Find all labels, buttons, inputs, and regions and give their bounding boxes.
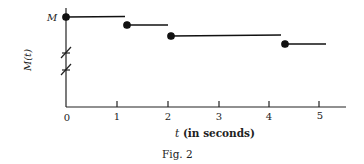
data-point <box>124 22 130 28</box>
data-point <box>63 14 69 20</box>
data-point <box>168 33 174 39</box>
step-chart: 0 1 2 3 4 5 M M(t) t (in seconds) Fig. 2 <box>0 0 364 164</box>
y-marker-label: M <box>46 12 58 23</box>
x-axis-unit: (in seconds) <box>179 127 255 139</box>
y-axis-label: M(t) <box>22 49 33 72</box>
x-tick-label: 1 <box>114 111 120 122</box>
figure-caption: Fig. 2 <box>162 148 193 160</box>
step-series <box>63 14 326 47</box>
data-point <box>282 41 288 47</box>
x-tick-label: 2 <box>165 111 171 122</box>
axis-break-icon <box>61 47 71 75</box>
x-tick-label: 0 <box>64 112 70 123</box>
x-tick-label: 3 <box>216 111 222 122</box>
x-tick-label: 5 <box>317 110 323 121</box>
x-ticks <box>117 101 319 107</box>
x-axis-label: t (in seconds) <box>175 127 255 139</box>
x-tick-labels: 0 1 2 3 4 5 <box>64 110 323 123</box>
x-tick-label: 4 <box>266 111 272 122</box>
